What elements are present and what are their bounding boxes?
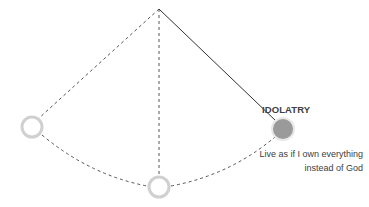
bob-right-active (272, 118, 294, 140)
swing-arc-left (42, 135, 147, 186)
pendulum-diagram: IDOLATRY Live as if I own everything ins… (0, 0, 369, 207)
string-right (159, 9, 276, 121)
bob-left (22, 117, 42, 137)
string-left (38, 9, 159, 119)
bob-center (149, 177, 169, 197)
pendulum-graphic (0, 0, 369, 207)
active-label-title: IDOLATRY (262, 104, 310, 115)
active-label-description: Live as if I own everything instead of G… (253, 147, 363, 175)
